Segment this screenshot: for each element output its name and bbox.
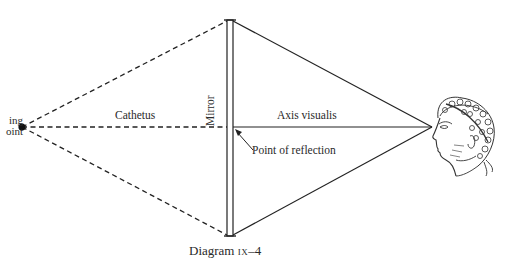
point-of-reflection-label: Point of reflection <box>252 144 336 156</box>
caption-prefix: Diagram <box>189 243 238 258</box>
diagram-caption: Diagram ix–4 <box>189 243 261 259</box>
optics-diagram <box>0 0 517 270</box>
solid-lines <box>233 21 432 235</box>
mirror-label-wrap: Mirror <box>204 86 218 126</box>
classical-head-icon <box>433 97 495 176</box>
caption-suffix: –4 <box>248 243 261 258</box>
viewing-point-label-line2: oint <box>0 126 23 137</box>
axis-visualis-label: Axis visualis <box>277 109 337 121</box>
diagram-canvas: ing oint Cathetus Axis visualis Point of… <box>0 0 517 270</box>
dashed-line-bottom <box>22 127 227 235</box>
reflection-arrow <box>235 129 253 150</box>
dashed-lines <box>22 21 227 235</box>
cathetus-label: Cathetus <box>115 109 155 121</box>
viewing-point-label: ing oint <box>0 115 23 137</box>
caption-numeral: ix <box>238 243 249 258</box>
mirror <box>224 20 236 236</box>
mirror-label: Mirror <box>204 95 216 126</box>
